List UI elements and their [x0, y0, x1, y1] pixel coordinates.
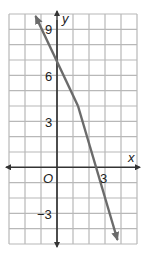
- origin-label: O: [43, 171, 53, 186]
- y-tick-6: 6: [45, 69, 52, 84]
- y-tick-9: 9: [45, 22, 52, 37]
- x-tick-3: 3: [100, 171, 107, 186]
- x-axis-label: x: [127, 150, 135, 165]
- y-tick-neg3: −3: [37, 207, 52, 222]
- y-tick-3: 3: [45, 115, 52, 130]
- grid: [9, 14, 137, 244]
- y-axis-label: y: [61, 11, 70, 26]
- coordinate-graph: y x O 9 6 3 −3 3: [0, 0, 145, 253]
